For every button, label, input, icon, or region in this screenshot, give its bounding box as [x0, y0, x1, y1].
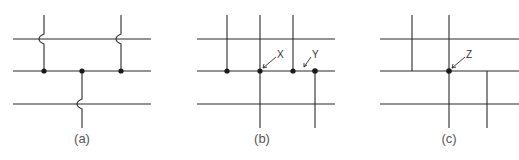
callout-arrow-y: [304, 57, 311, 67]
caption-a: (a): [74, 131, 90, 146]
callout-label-x: X: [277, 49, 284, 60]
panel-c: Z (c): [380, 15, 519, 146]
panel-b: X Y (b): [197, 15, 335, 146]
junction-dot: [41, 68, 46, 73]
panel-a: (a): [13, 15, 151, 146]
wiring-diagram-figure: (a) X Y (b) Z (c): [0, 0, 519, 160]
junction-dot: [290, 68, 295, 73]
wire-vertical-hop-2: [116, 15, 121, 71]
callout-arrow-z: [452, 57, 465, 68]
callout-label-y: Y: [312, 49, 319, 60]
junction-dot: [224, 68, 229, 73]
caption-c: (c): [441, 131, 456, 146]
wire-vertical-hop-3: [77, 71, 82, 128]
junction-dot-y: [312, 68, 318, 74]
wire-vertical-hop-1: [39, 15, 44, 71]
junction-dot: [118, 68, 123, 73]
caption-b: (b): [254, 131, 270, 146]
junction-dot-x: [257, 68, 262, 73]
callout-label-z: Z: [466, 49, 472, 60]
callout-arrow-x: [263, 57, 276, 68]
junction-dot: [79, 68, 84, 73]
junction-dot-z: [446, 68, 452, 74]
